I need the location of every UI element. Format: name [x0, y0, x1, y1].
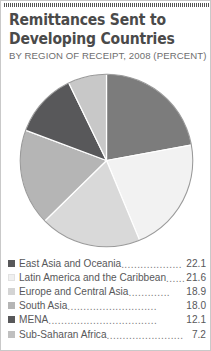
legend-leader-dots: ............................ — [67, 301, 186, 312]
legend-item[interactable]: Europe and Central Asia ............. 18… — [8, 284, 206, 298]
legend-leader-dots: ................... — [121, 259, 186, 270]
legend-item-value: 21.6 — [186, 272, 206, 283]
legend-item-label: MENA — [19, 314, 48, 325]
page-title: Remittances Sent to Developing Countries — [9, 10, 193, 48]
legend-item-value: 12.1 — [186, 314, 206, 325]
legend-item[interactable]: South Asia ............................ … — [8, 299, 206, 313]
legend-leader-dots: ........................ — [107, 330, 192, 341]
legend-item-label: South Asia — [19, 300, 67, 311]
chart-header: Remittances Sent to Developing Countries… — [9, 10, 205, 61]
legend-item-value: 18.0 — [186, 300, 206, 311]
legend-item[interactable]: Latin America and the Caribbean ...... 2… — [8, 270, 206, 284]
legend-leader-dots: .................................. — [48, 315, 186, 326]
chart-plot-area — [1, 69, 211, 253]
legend-item[interactable]: East Asia and Oceania ..................… — [8, 256, 206, 270]
legend-item-value: 7.2 — [192, 329, 206, 340]
chart-subtitle: BY REGION OF RECEIPT, 2008 (PERCENT) — [9, 50, 205, 61]
legend-item-value: 18.9 — [186, 286, 206, 297]
legend-item-label: Europe and Central Asia — [19, 286, 128, 297]
chart-card: Remittances Sent to Developing Countries… — [0, 0, 211, 351]
legend-leader-dots: ............. — [128, 287, 186, 298]
pie-chart-svg — [18, 72, 195, 249]
legend-item-value: 22.1 — [186, 258, 206, 269]
legend-item-label: Latin America and the Caribbean — [19, 272, 166, 283]
legend-item[interactable]: Sub-Saharan Africa .....................… — [8, 327, 206, 341]
chart-legend: East Asia and Oceania ..................… — [8, 256, 206, 341]
legend-swatch-icon — [8, 260, 15, 267]
legend-swatch-icon — [8, 274, 15, 281]
legend-swatch-icon — [8, 302, 15, 309]
legend-swatch-icon — [8, 316, 15, 323]
legend-item-label: Sub-Saharan Africa — [19, 329, 107, 340]
legend-swatch-icon — [8, 331, 15, 338]
legend-item-label: East Asia and Oceania — [19, 258, 121, 269]
legend-swatch-icon — [8, 288, 15, 295]
legend-item[interactable]: MENA .................................. … — [8, 313, 206, 327]
top-rule-decoration — [4, 3, 209, 7]
pie-chart — [18, 72, 195, 249]
legend-leader-dots: ...... — [166, 273, 186, 284]
